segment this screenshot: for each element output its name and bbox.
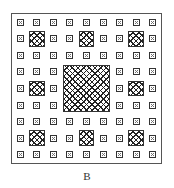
- small-square: [17, 68, 24, 75]
- small-square: [33, 118, 40, 125]
- medium-hatched-square: [29, 130, 45, 146]
- small-square: [133, 19, 140, 26]
- small-square: [116, 35, 123, 42]
- small-square: [116, 52, 123, 59]
- small-square: [100, 52, 107, 59]
- small-square: [149, 68, 156, 75]
- small-square: [149, 151, 156, 158]
- medium-hatched-square: [128, 31, 144, 47]
- small-square: [50, 52, 57, 59]
- small-square: [133, 151, 140, 158]
- small-square: [83, 19, 90, 26]
- small-square: [33, 52, 40, 59]
- small-square: [50, 118, 57, 125]
- small-square: [17, 151, 24, 158]
- small-square: [116, 102, 123, 109]
- small-square: [50, 135, 57, 142]
- carpet-frame: [11, 13, 162, 164]
- small-square: [149, 135, 156, 142]
- small-square: [133, 52, 140, 59]
- small-square: [17, 135, 24, 142]
- small-square: [149, 118, 156, 125]
- medium-hatched-square: [79, 31, 95, 47]
- small-square: [33, 102, 40, 109]
- small-square: [116, 85, 123, 92]
- small-square: [66, 151, 73, 158]
- small-square: [83, 52, 90, 59]
- small-square: [149, 102, 156, 109]
- small-square: [50, 35, 57, 42]
- small-square: [50, 85, 57, 92]
- small-square: [17, 118, 24, 125]
- small-square: [50, 19, 57, 26]
- small-square: [133, 68, 140, 75]
- small-square: [33, 19, 40, 26]
- small-square: [66, 135, 73, 142]
- small-square: [116, 135, 123, 142]
- small-square: [50, 102, 57, 109]
- small-square: [66, 35, 73, 42]
- small-square: [50, 68, 57, 75]
- large-hatched-square: [63, 65, 111, 113]
- small-square: [116, 68, 123, 75]
- small-square: [100, 151, 107, 158]
- small-square: [17, 85, 24, 92]
- small-square: [66, 19, 73, 26]
- medium-hatched-square: [29, 81, 45, 97]
- small-square: [149, 35, 156, 42]
- small-square: [50, 151, 57, 158]
- small-square: [17, 52, 24, 59]
- small-square: [33, 68, 40, 75]
- small-square: [133, 102, 140, 109]
- small-square: [83, 118, 90, 125]
- small-square: [66, 118, 73, 125]
- figure-label: B: [0, 170, 174, 182]
- small-square: [17, 19, 24, 26]
- small-square: [17, 102, 24, 109]
- small-square: [33, 151, 40, 158]
- small-square: [149, 85, 156, 92]
- small-square: [100, 135, 107, 142]
- small-square: [83, 151, 90, 158]
- small-square: [133, 118, 140, 125]
- small-square: [100, 19, 107, 26]
- small-square: [100, 35, 107, 42]
- small-square: [149, 19, 156, 26]
- medium-hatched-square: [79, 130, 95, 146]
- small-square: [66, 52, 73, 59]
- medium-hatched-square: [128, 81, 144, 97]
- small-square: [116, 19, 123, 26]
- small-square: [116, 151, 123, 158]
- medium-hatched-square: [29, 31, 45, 47]
- small-square: [116, 118, 123, 125]
- medium-hatched-square: [128, 130, 144, 146]
- small-square: [100, 118, 107, 125]
- small-square: [17, 35, 24, 42]
- small-square: [149, 52, 156, 59]
